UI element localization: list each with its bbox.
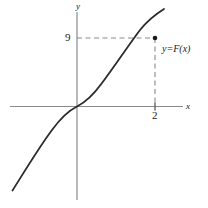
curve-equation-label: y=F(x) <box>162 44 190 54</box>
x-tick-label-2: 2 <box>152 110 158 121</box>
y-axis-label: y <box>76 2 80 11</box>
marked-point-2-9 <box>153 36 158 41</box>
plot-canvas <box>0 0 208 208</box>
function-curve <box>13 9 165 191</box>
function-graph-figure: y x 9 2 y=F(x) <box>0 0 208 208</box>
x-axis-label: x <box>186 102 190 111</box>
y-tick-label-9: 9 <box>65 32 71 43</box>
